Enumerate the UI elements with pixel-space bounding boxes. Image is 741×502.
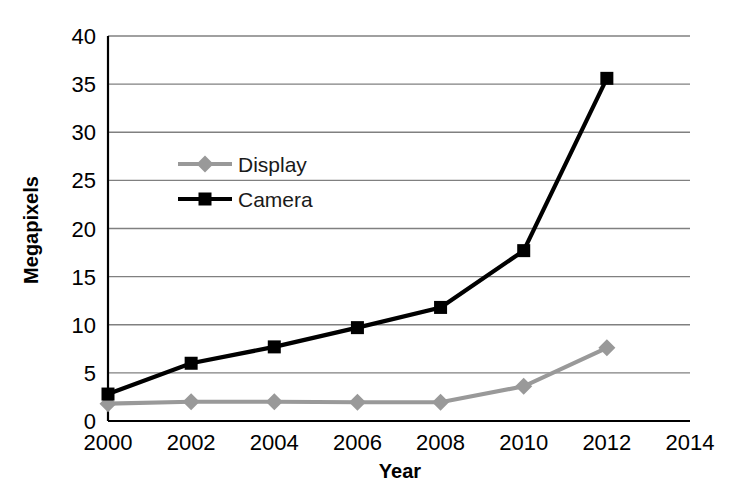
data-point-marker bbox=[351, 321, 364, 334]
data-point-marker bbox=[266, 393, 283, 410]
data-point-marker bbox=[268, 340, 281, 353]
data-point-marker bbox=[197, 156, 214, 173]
legend-label: Display bbox=[238, 153, 307, 176]
x-axis-title: Year bbox=[379, 460, 421, 482]
data-point-marker bbox=[598, 339, 615, 356]
x-tick-label: 2000 bbox=[84, 430, 133, 455]
chart-container: 0510152025303540 20002002200420062008201… bbox=[0, 0, 741, 502]
x-tick-label: 2012 bbox=[582, 430, 631, 455]
y-axis-title: Megapixels bbox=[20, 176, 42, 284]
data-point-marker bbox=[434, 301, 447, 314]
legend-item-display[interactable]: Display bbox=[178, 153, 307, 176]
data-point-marker bbox=[517, 244, 530, 257]
data-point-marker bbox=[199, 193, 212, 206]
data-point-marker bbox=[183, 393, 200, 410]
chart-legend: DisplayCamera bbox=[178, 153, 313, 211]
y-tick-label: 15 bbox=[72, 265, 96, 290]
y-tick-label: 40 bbox=[72, 24, 96, 49]
series-display bbox=[100, 339, 616, 412]
y-tick-label: 35 bbox=[72, 72, 96, 97]
y-axis-tick-labels: 0510152025303540 bbox=[72, 24, 96, 434]
line-chart: 0510152025303540 20002002200420062008201… bbox=[0, 0, 741, 502]
x-tick-label: 2008 bbox=[416, 430, 465, 455]
y-tick-label: 20 bbox=[72, 217, 96, 242]
y-tick-label: 5 bbox=[84, 361, 96, 386]
legend-label: Camera bbox=[238, 188, 313, 211]
data-series-layer bbox=[100, 72, 616, 412]
y-tick-label: 10 bbox=[72, 313, 96, 338]
x-tick-label: 2010 bbox=[499, 430, 548, 455]
x-tick-label: 2002 bbox=[167, 430, 216, 455]
data-point-marker bbox=[600, 72, 613, 85]
data-point-marker bbox=[349, 394, 366, 411]
data-point-marker bbox=[432, 394, 449, 411]
legend-item-camera[interactable]: Camera bbox=[178, 188, 313, 211]
x-axis-tick-labels: 20002002200420062008201020122014 bbox=[84, 430, 715, 455]
x-tick-label: 2006 bbox=[333, 430, 382, 455]
data-point-marker bbox=[515, 378, 532, 395]
data-point-marker bbox=[185, 357, 198, 370]
y-tick-label: 25 bbox=[72, 168, 96, 193]
x-tick-label: 2004 bbox=[250, 430, 299, 455]
y-tick-label: 30 bbox=[72, 120, 96, 145]
series-camera bbox=[102, 72, 614, 401]
series-line bbox=[108, 78, 607, 394]
x-tick-label: 2014 bbox=[666, 430, 715, 455]
data-point-marker bbox=[102, 388, 115, 401]
